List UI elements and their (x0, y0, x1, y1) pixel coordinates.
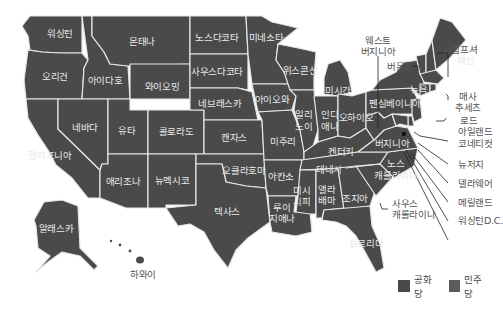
label-massachusetts-1: 매사 (459, 91, 476, 102)
label-colorado: 콜로라도 (159, 126, 194, 137)
label-south-carolina-1: 사우스 (392, 198, 418, 209)
label-oregon: 오리건 (42, 71, 68, 82)
label-arizona: 애리조나 (106, 176, 141, 187)
label-rhode-island-2: 아일랜드 (458, 126, 493, 137)
label-north-carolina-2: 캐롤라이나 (374, 170, 418, 181)
state-alaska[interactable] (34, 200, 98, 272)
label-pennsylvania: 펜실베이니아 (369, 98, 421, 109)
label-georgia: 조지아 (342, 193, 368, 204)
label-wyoming: 와이오밍 (145, 81, 180, 92)
label-nebraska: 네브래스카 (198, 98, 242, 109)
label-iowa: 아이오와 (255, 94, 290, 105)
label-ohio: 오하이오 (339, 112, 374, 123)
label-new-mexico: 뉴멕시코 (155, 175, 190, 186)
label-indiana-1: 인디 (321, 109, 338, 120)
label-texas: 텍사스 (214, 206, 240, 217)
label-kansas: 캔자스 (221, 132, 247, 143)
state-hawaii[interactable] (110, 240, 144, 264)
label-south-carolina-2: 캐롤라이나 (392, 209, 436, 220)
label-washington: 워싱턴 (47, 28, 73, 39)
legend-label-democrat: 민주당 (464, 272, 489, 300)
label-tennessee: 테네시 (316, 164, 342, 175)
legend: 공화당 민주당 (398, 272, 495, 300)
label-missouri: 미주리 (270, 136, 296, 147)
label-connecticut: 코네티컷 (458, 138, 493, 149)
label-dc: 워싱턴D.C. (458, 215, 503, 226)
label-massachusetts-2: 추세츠 (455, 102, 481, 113)
label-new-jersey: 뉴저지 (458, 159, 484, 170)
legend-swatch-democrat (449, 280, 461, 292)
label-alaska: 알래스카 (39, 223, 74, 234)
label-oklahoma: 오클라호마 (222, 165, 266, 176)
label-rhode-island-1: 로드 (460, 115, 477, 126)
label-delaware: 델라웨어 (458, 178, 493, 189)
label-idaho: 아이다호 (88, 75, 123, 86)
label-vermont: 버몬트 (387, 61, 413, 72)
label-alabama-1: 앨라 (318, 184, 335, 195)
label-michigan: 미시간 (325, 85, 351, 96)
label-west-virginia-2: 버지니아 (361, 46, 396, 57)
label-california: 캘리포니아 (28, 150, 72, 161)
label-south-dakota: 사우스다코타 (191, 66, 243, 77)
label-montana: 몬태나 (129, 36, 155, 47)
label-arkansas: 아칸소 (268, 171, 294, 182)
label-maine: 메인 (457, 55, 474, 66)
label-utah: 유타 (118, 125, 135, 136)
label-illinois-2: 노이 (295, 121, 312, 132)
label-west-virginia-1: 웨스트 (365, 35, 391, 46)
label-kentucky: 켄터키 (328, 146, 354, 157)
label-nevada: 네바다 (72, 122, 98, 133)
label-illinois-1: 일리 (295, 109, 312, 120)
label-louisiana-1: 루이 (273, 202, 290, 213)
label-virginia: 버지니아 (375, 138, 410, 149)
label-mississippi-1: 미시 (293, 185, 310, 196)
state-rhode-island[interactable] (430, 84, 436, 92)
label-indiana-2: 애나 (321, 121, 338, 132)
label-minnesota: 미네소타 (249, 32, 284, 43)
label-new-york: 뉴욕 (410, 84, 427, 95)
label-maryland: 메릴랜드 (458, 197, 493, 208)
dc-marker (402, 132, 406, 136)
label-hawaii: 하와이 (130, 269, 156, 280)
label-louisiana-2: 지애나 (269, 213, 295, 224)
label-new-hampshire: 뉴햄프셔 (443, 44, 478, 55)
label-mississippi-2: 시피 (293, 196, 310, 207)
legend-item-democrat: 민주당 (449, 272, 490, 300)
legend-item-republican: 공화당 (398, 272, 439, 300)
legend-swatch-republican (398, 280, 410, 292)
label-north-carolina-1: 노스 (387, 158, 404, 169)
legend-label-republican: 공화당 (414, 272, 439, 300)
label-wisconsin: 위스콘신 (283, 65, 318, 76)
label-north-dakota: 노스다코타 (195, 32, 239, 43)
label-alabama-2: 배마 (318, 195, 335, 206)
label-florida: 플로리다 (349, 238, 384, 249)
